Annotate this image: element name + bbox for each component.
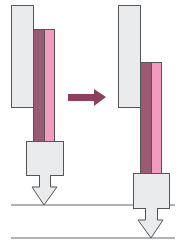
before-plate bbox=[12, 6, 34, 108]
after-pink-bar bbox=[152, 63, 162, 174]
after-dark-bar bbox=[141, 63, 152, 174]
before-dark-bar bbox=[34, 30, 45, 142]
after-plate bbox=[119, 6, 141, 108]
before-down-arrow-icon bbox=[32, 175, 57, 205]
mechanism-diagram bbox=[0, 0, 179, 249]
before-pink-bar bbox=[45, 30, 55, 142]
transition-arrow-icon bbox=[68, 89, 106, 106]
after-block bbox=[134, 174, 170, 209]
after-down-arrow-icon bbox=[138, 208, 163, 238]
before-block bbox=[27, 142, 64, 176]
